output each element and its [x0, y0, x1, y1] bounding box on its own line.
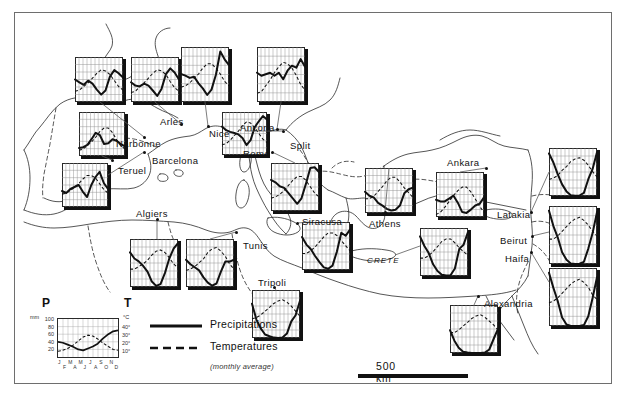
- legend-month-S-top-4: S: [99, 359, 102, 365]
- scale-bar-rule: [358, 374, 468, 378]
- legend-p-tick-60: 60: [30, 331, 54, 337]
- chart-lines: [420, 228, 468, 276]
- city-dot-athens[interactable]: [384, 211, 387, 214]
- legend-t-tick-1: 30°: [122, 332, 130, 338]
- city-label-narbonne[interactable]: Narbonne: [116, 138, 161, 149]
- city-label-rome[interactable]: Rome: [243, 148, 270, 159]
- chart-shadow-bottom: [77, 102, 126, 105]
- city-label-beirut[interactable]: Beirut: [500, 235, 527, 246]
- chart-shadow-bottom: [188, 287, 237, 290]
- city-label-split[interactable]: Split: [290, 140, 310, 151]
- city-dot-arles[interactable]: [180, 123, 183, 126]
- chart-shadow-bottom: [64, 207, 111, 210]
- climate-diagram-beirut[interactable]: [549, 206, 597, 264]
- chart-shadow-right: [597, 150, 600, 199]
- climate-diagram-athens[interactable]: [365, 168, 413, 213]
- city-label-barcelona[interactable]: Barcelona: [152, 155, 198, 166]
- climate-diagram-narbonne[interactable]: [75, 57, 123, 102]
- chart-shadow-right: [108, 165, 111, 210]
- legend-p-title: P: [42, 296, 50, 310]
- climate-diagram-rome[interactable]: [271, 163, 319, 211]
- city-dot-nice[interactable]: [207, 125, 210, 128]
- chart-lines: [365, 168, 413, 213]
- chart-lines: [549, 206, 597, 264]
- city-dot-tripoli[interactable]: [273, 286, 276, 289]
- city-dot-beirut[interactable]: [531, 235, 534, 238]
- city-dot-tunis[interactable]: [235, 231, 238, 234]
- legend-month-O-bottom-4: O: [104, 364, 108, 370]
- chart-lines: [186, 239, 234, 287]
- chart-shadow-right: [498, 307, 501, 356]
- chart-shadow-bottom: [259, 102, 308, 105]
- legend-precip-swatch: [150, 322, 202, 330]
- city-dot-ankara[interactable]: [485, 167, 488, 170]
- chart-lines: [271, 163, 319, 211]
- city-dot-split[interactable]: [282, 130, 285, 133]
- chart-shadow-right: [468, 230, 471, 279]
- city-label-ancona[interactable]: Ancona: [240, 122, 275, 133]
- chart-shadow-bottom: [438, 217, 487, 220]
- city-dot-algiers[interactable]: [156, 218, 159, 221]
- chart-lines: [436, 172, 484, 217]
- city-label-latakia[interactable]: Latakia: [497, 209, 530, 220]
- climate-diagram-barcelona[interactable]: [62, 163, 108, 207]
- climate-diagram-latakia[interactable]: [549, 148, 597, 196]
- chart-lines: [75, 57, 123, 102]
- city-dot-alexandria[interactable]: [477, 295, 480, 298]
- city-dot-teruel[interactable]: [111, 159, 114, 162]
- city-dot-narbonne[interactable]: [143, 136, 146, 139]
- chart-lines: [302, 222, 350, 270]
- legend-month-F-bottom-0: F: [63, 364, 66, 370]
- city-label-siracusa[interactable]: Siracusa: [302, 216, 342, 227]
- chart-lines: [79, 112, 125, 156]
- chart-shadow-right: [300, 292, 303, 341]
- chart-shadow-right: [350, 224, 353, 273]
- city-label-athens[interactable]: Athens: [369, 218, 401, 229]
- chart-shadow-bottom: [132, 287, 181, 290]
- legend-note: (monthly average): [210, 362, 274, 371]
- climate-diagram-teruel[interactable]: [79, 112, 125, 156]
- city-label-algiers[interactable]: Algiers: [136, 208, 168, 219]
- scale-label: 500 km: [376, 360, 396, 384]
- climate-diagram-haifa[interactable]: [549, 268, 597, 326]
- chart-shadow-bottom: [183, 102, 232, 105]
- legend-p-tick-20: 20: [30, 346, 54, 352]
- city-label-teruel[interactable]: Teruel: [118, 165, 146, 176]
- climate-diagram-siracusa[interactable]: [302, 222, 350, 270]
- climate-diagram-crete[interactable]: [420, 228, 468, 276]
- city-dot-latakia[interactable]: [530, 211, 533, 214]
- climate-diagram-nice[interactable]: [181, 47, 229, 102]
- legend-t-unit: °C: [123, 314, 129, 320]
- legend-precip-label: Precipitations: [210, 318, 277, 330]
- chart-shadow-bottom: [133, 102, 182, 105]
- climate-diagram-alexandria[interactable]: [450, 305, 498, 353]
- legend-month-J-top-3: J: [89, 359, 92, 365]
- city-label-ankara[interactable]: Ankara: [447, 157, 480, 168]
- legend-month-M-top-2: M: [79, 359, 83, 365]
- city-dot-ancona[interactable]: [276, 128, 279, 131]
- climate-diagram-algiers[interactable]: [130, 239, 178, 287]
- city-dot-rome[interactable]: [271, 151, 274, 154]
- legend-p-tick-40: 40: [30, 339, 54, 345]
- region-label-crete: CRETE: [367, 256, 400, 265]
- climate-diagram-ankara[interactable]: [436, 172, 484, 217]
- city-label-haifa[interactable]: Haifa: [505, 253, 529, 264]
- city-label-tunis[interactable]: Tunis: [243, 240, 268, 251]
- climate-diagram-ancona[interactable]: [257, 47, 305, 102]
- legend-month-M-top-1: M: [68, 359, 72, 365]
- city-dot-haifa[interactable]: [530, 251, 533, 254]
- city-label-nice[interactable]: Nice: [209, 128, 230, 139]
- city-dot-barcelona[interactable]: [143, 151, 146, 154]
- climate-diagram-arles[interactable]: [131, 57, 179, 102]
- chart-lines: [130, 239, 178, 287]
- legend-month-A-bottom-1: A: [73, 364, 76, 370]
- chart-shadow-right: [229, 49, 232, 105]
- legend-p-tick-100: 100: [30, 316, 54, 322]
- climate-diagram-tunis[interactable]: [186, 239, 234, 287]
- legend-climate-chart: [57, 318, 119, 358]
- legend-month-J-bottom-2: J: [84, 364, 87, 370]
- chart-shadow-bottom: [367, 213, 416, 216]
- chart-lines: [549, 268, 597, 326]
- city-dot-siracusa[interactable]: [296, 222, 299, 225]
- city-label-alexandria[interactable]: Alexandria: [484, 298, 533, 309]
